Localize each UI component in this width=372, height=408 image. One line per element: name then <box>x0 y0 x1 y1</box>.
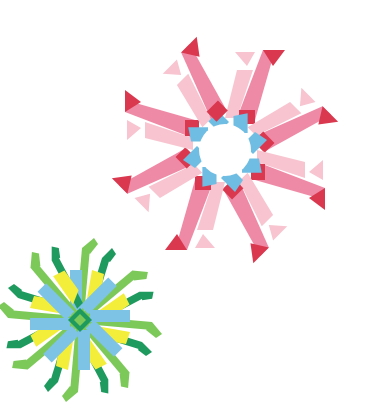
origami-illustration <box>0 0 372 408</box>
green-pinwheel-star <box>0 237 163 404</box>
pink-pinwheel-star <box>112 37 338 263</box>
origami-photo <box>0 0 372 408</box>
